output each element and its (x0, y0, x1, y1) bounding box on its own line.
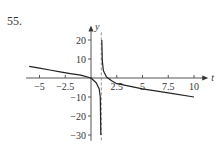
y-tick-label: 10 (76, 54, 86, 65)
y-tick-label: −30 (70, 130, 86, 141)
y-axis-label: y (94, 21, 100, 32)
x-tick-label: 2.5 (111, 81, 124, 92)
y-tick-label: −20 (70, 111, 86, 122)
x-tick-label: 10 (189, 81, 199, 92)
y-tick-label: 20 (76, 35, 86, 46)
y-axis-arrow-icon (89, 25, 94, 31)
x-tick-label: 7.5 (162, 81, 175, 92)
x-tick-label: 5 (140, 81, 145, 92)
x-tick-label: −2.5 (56, 81, 74, 92)
x-tick-label: −5 (34, 81, 45, 92)
x-axis-arrow-icon (202, 76, 208, 81)
axes: ty−5−2.52.557.5102010−10−20−30 (26, 21, 214, 142)
chart: ty−5−2.52.557.5102010−10−20−30 (0, 0, 220, 153)
y-tick-label: −10 (70, 92, 86, 103)
x-axis-label: t (211, 72, 214, 83)
